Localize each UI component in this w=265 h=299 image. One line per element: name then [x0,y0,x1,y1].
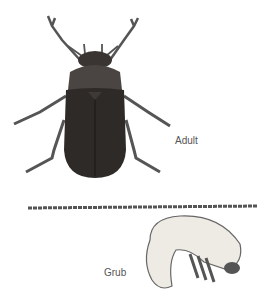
adult-beetle [14,16,170,178]
grub-label: Grub [104,267,126,278]
soil-line [28,206,258,208]
adult-label: Adult [175,135,198,146]
beetle-illustration [0,0,265,299]
grub [146,216,240,288]
illustration: Adult Grub [0,0,265,299]
